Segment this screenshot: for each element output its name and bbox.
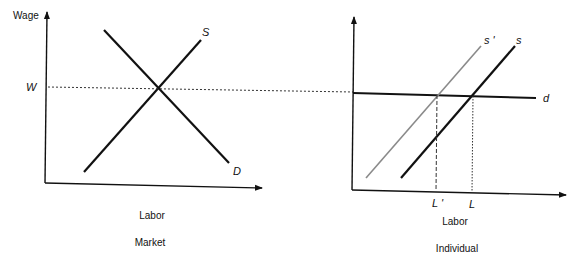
- individual-x-axis-label: Labor: [442, 216, 468, 227]
- individual-demand-line: [353, 93, 536, 98]
- y-axis-label-wage: Wage: [13, 10, 39, 21]
- individual-x-axis: [352, 190, 566, 195]
- supply-label-s: S: [202, 26, 210, 38]
- market-y-axis: [45, 12, 47, 183]
- l-prime-dashed-line: [436, 95, 437, 191]
- shifted-supply-label: s ': [484, 34, 496, 46]
- individual-caption: Individual: [436, 243, 478, 254]
- market-x-axis: [45, 183, 262, 188]
- supply-label-s-lower: s: [516, 34, 522, 46]
- market-x-axis-label: Labor: [139, 210, 165, 221]
- wage-marker-w: W: [26, 81, 38, 93]
- demand-label-d: D: [233, 165, 241, 177]
- labor-l-prime-label: L ': [432, 197, 444, 209]
- market-demand-curve: [104, 30, 229, 163]
- labor-l-label: L: [469, 198, 475, 210]
- demand-label-d-lower: d: [543, 92, 550, 104]
- individual-panel: s ' s d L ' L Labor Individual: [352, 17, 566, 254]
- market-supply-curve: [84, 40, 201, 172]
- market-panel: Wage W S D Labor Market: [13, 10, 353, 248]
- market-caption: Market: [135, 237, 166, 248]
- l-dotted-line: [472, 96, 473, 192]
- individual-y-axis: [352, 17, 354, 190]
- shifted-supply-curve: [366, 46, 481, 178]
- individual-supply-curve: [401, 46, 515, 178]
- labor-market-diagram: Wage W S D Labor Market s ' s d L ' L La…: [0, 0, 576, 265]
- wage-reference-dotted-line: [48, 87, 353, 92]
